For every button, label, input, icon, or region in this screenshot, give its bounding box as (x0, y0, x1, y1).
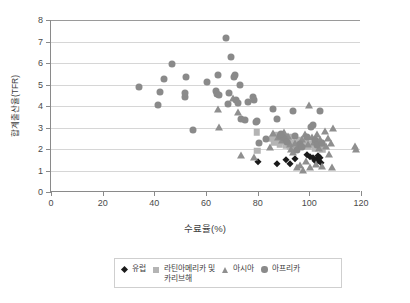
x-tick-mark (309, 191, 310, 196)
data-point (215, 123, 223, 130)
data-point (290, 108, 297, 115)
legend-item-label: 라틴아메리카 및 카리브해 (164, 264, 215, 283)
y-tick-label: 1 (38, 166, 43, 176)
x-tick-mark (258, 191, 259, 196)
y-tick-mark (46, 42, 51, 43)
data-point (266, 143, 274, 150)
data-point (242, 117, 249, 124)
data-point (269, 105, 276, 112)
y-tick-mark (46, 85, 51, 86)
legend-item[interactable]: 아시아 (222, 264, 254, 274)
x-tick-label: 0 (48, 198, 53, 208)
data-point (325, 150, 333, 157)
y-tick-label: 3 (38, 123, 43, 133)
data-point (226, 90, 233, 97)
data-point (321, 127, 329, 134)
x-tick-mark (361, 191, 362, 196)
data-point (237, 152, 245, 159)
x-tick-label: 60 (201, 198, 211, 208)
legend-item[interactable]: 라틴아메리카 및 카리브해 (153, 264, 215, 283)
data-point (263, 135, 270, 142)
data-point (277, 130, 284, 137)
data-point (303, 134, 310, 141)
data-point (223, 35, 230, 42)
data-point (231, 72, 238, 79)
data-point (254, 118, 261, 125)
gridline (51, 42, 360, 43)
legend-item-label: 아프리카 (272, 264, 300, 274)
data-point (235, 99, 242, 106)
legend-triangle-icon (222, 266, 229, 273)
gridline (51, 106, 360, 107)
x-tick-mark (154, 191, 155, 196)
data-point (318, 140, 325, 147)
y-tick-mark (46, 149, 51, 150)
gridline (51, 20, 360, 21)
data-point (316, 108, 323, 115)
y-axis-title: 합계출산율(TFR) (8, 75, 20, 137)
data-point (250, 154, 258, 161)
x-tick-mark (103, 191, 104, 196)
data-point (299, 144, 306, 151)
x-tick-label: 100 (302, 198, 317, 208)
y-tick-label: 8 (38, 15, 43, 25)
legend-item[interactable]: 아프리카 (261, 264, 300, 274)
data-point (161, 75, 168, 82)
data-point (236, 82, 243, 89)
data-point (224, 101, 231, 108)
data-point (328, 164, 336, 171)
data-point (251, 96, 258, 103)
data-point (291, 133, 298, 140)
data-point (273, 116, 280, 123)
y-tick-label: 4 (38, 101, 43, 111)
x-tick-label: 40 (149, 198, 159, 208)
legend-diamond-icon (121, 266, 128, 273)
x-tick-mark (206, 191, 207, 196)
data-point (234, 108, 242, 115)
data-point (227, 54, 234, 61)
legend-item[interactable]: 유럽 (121, 264, 146, 274)
data-point (204, 78, 211, 85)
plot-area: 012345678 020406080100120 (50, 20, 360, 192)
data-point (183, 73, 190, 80)
y-tick-label: 0 (38, 187, 43, 197)
y-tick-mark (46, 106, 51, 107)
legend-square-icon (153, 266, 160, 273)
data-point (305, 101, 313, 108)
data-point (215, 92, 222, 99)
y-tick-label: 5 (38, 80, 43, 90)
y-tick-label: 6 (38, 58, 43, 68)
x-tick-label: 80 (253, 198, 263, 208)
x-tick-mark (51, 191, 52, 196)
scatter-chart: 012345678 020406080100120 수료율(%) 합계출산율(T… (0, 0, 410, 303)
data-point (155, 101, 162, 108)
y-tick-mark (46, 63, 51, 64)
y-tick-label: 7 (38, 37, 43, 47)
data-point (318, 162, 326, 169)
y-tick-mark (46, 128, 51, 129)
data-point (214, 71, 221, 78)
gridline (51, 171, 360, 172)
data-point (182, 89, 189, 96)
data-point (214, 106, 222, 113)
y-tick-mark (46, 20, 51, 21)
y-tick-mark (46, 171, 51, 172)
data-point (253, 129, 260, 136)
legend-item-label: 아시아 (233, 264, 254, 274)
data-point (327, 140, 335, 147)
legend-item-label: 유럽 (132, 264, 146, 274)
data-point (255, 139, 262, 146)
gridline (51, 63, 360, 64)
data-point (189, 127, 196, 134)
legend-circle-icon (261, 266, 268, 273)
data-point (284, 138, 291, 145)
data-point (135, 84, 142, 91)
x-axis-title: 수료율(%) (50, 221, 360, 235)
x-tick-label: 20 (98, 198, 108, 208)
y-tick-label: 2 (38, 144, 43, 154)
data-point (352, 145, 360, 152)
data-point (309, 122, 316, 129)
data-point (329, 125, 337, 132)
data-point (157, 88, 164, 95)
data-point (168, 60, 175, 67)
